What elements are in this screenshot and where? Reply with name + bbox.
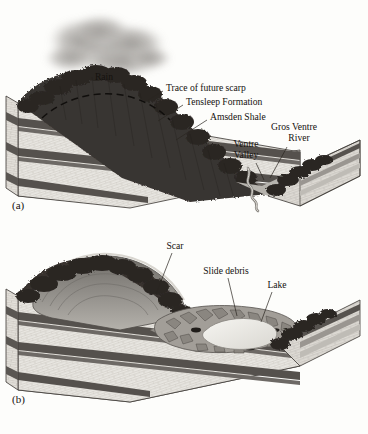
label-trace-of-future-scarp: Trace of future scarp [166,82,246,93]
label-rain: Rain [95,71,113,82]
label-ventre-valley-line2: Valley [234,149,259,160]
label-scar: Scar [166,240,184,251]
gros-ventre-landslide-figure: Rain Trace of future scarp Tensleep Form… [0,0,368,434]
label-lake: Lake [267,279,286,290]
label-gros-ventre-line2: River [288,132,310,143]
label-tensleep-formation: Tensleep Formation [186,96,263,107]
label-slide-debris: Slide debris [203,265,249,276]
panel-letter-a: (a) [12,199,25,212]
label-gros-ventre-line1: Gros Ventre [271,121,317,132]
label-ventre-valley-line1: Ventre [233,138,258,149]
panel-letter-b: (b) [12,393,25,406]
label-amsden-shale: Amsden Shale [210,111,266,122]
